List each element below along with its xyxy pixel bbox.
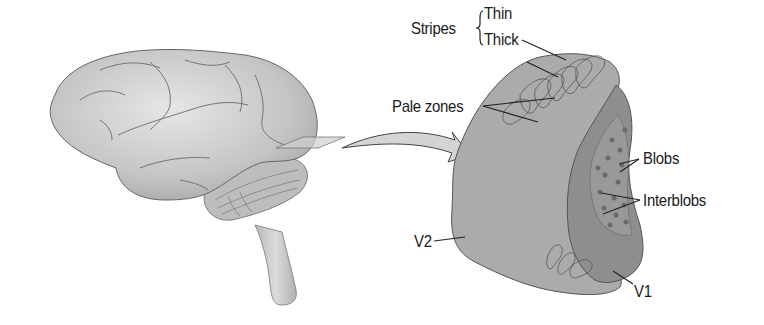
- brain-illustration: [50, 49, 345, 305]
- curved-arrow: [342, 132, 470, 162]
- cortex-section: [452, 54, 643, 295]
- label-interblobs: Interblobs: [643, 192, 706, 209]
- visual-cortex-diagram: Stripes Thin Thick Pale zones Blobs Inte…: [0, 0, 764, 325]
- label-blobs: Blobs: [643, 150, 679, 167]
- label-pale-zones: Pale zones: [392, 98, 463, 115]
- label-thick: Thick: [484, 31, 518, 48]
- label-stripes: Stripes: [411, 20, 456, 37]
- stripes-brace: [476, 11, 483, 45]
- brainstem: [255, 225, 296, 305]
- label-thin: Thin: [484, 5, 512, 22]
- label-v2: V2: [414, 233, 432, 250]
- label-v1: V1: [634, 283, 652, 300]
